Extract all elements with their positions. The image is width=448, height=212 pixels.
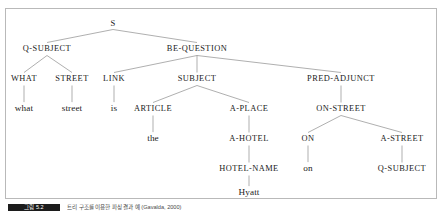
tree-node-a-place: A-PLACE: [230, 105, 269, 113]
tree-node-w-what: what: [15, 104, 33, 113]
tree-node-w-street: street: [62, 104, 83, 113]
tree-node-pred-adjunct: PRED-ADJUNCT: [307, 75, 375, 83]
figure-frame: SQ-SUBJECTBE-QUESTIONWHATSTREETLINKSUBJE…: [5, 8, 437, 199]
tree-edge-root-to-be-question: [113, 30, 197, 43]
tree-node-article: ARTICLE: [134, 105, 172, 113]
tree-node-on-street: ON-STREET: [316, 105, 366, 113]
tree-node-w-is: is: [111, 104, 117, 113]
tree-edge-q-subject-to-what: [24, 56, 47, 73]
tree-node-what: WHAT: [11, 75, 37, 83]
tree-node-w-hyatt: Hyatt: [239, 188, 260, 197]
tree-edge-q-subject-to-street-cat: [47, 56, 72, 73]
tree-node-subject: SUBJECT: [178, 75, 217, 83]
tree-edge-subject-to-article: [153, 86, 197, 103]
tree-edge-be-question-to-pred-adjunct: [197, 56, 341, 73]
tree-edge-subject-to-a-place: [197, 86, 249, 103]
tree-edge-root-to-q-subject: [47, 30, 113, 43]
tree-node-w-on: on: [303, 164, 312, 173]
tree-node-street-cat: STREET: [55, 75, 88, 83]
tree-node-q-subject2: Q-SUBJECT: [378, 165, 426, 173]
tree-node-a-hotel: A-HOTEL: [229, 135, 268, 143]
tree-node-q-subject: Q-SUBJECT: [23, 45, 71, 53]
tree-edge-on-street-to-on-cat: [308, 116, 341, 133]
tree-edge-be-question-to-link: [114, 56, 197, 73]
tree-edge-on-street-to-a-street: [341, 116, 402, 133]
caption-tag-label: 그림 5.2: [8, 204, 60, 211]
tree-node-a-street: A-STREET: [380, 135, 423, 143]
tree-node-be-question: BE-QUESTION: [167, 45, 227, 53]
tree-node-link: LINK: [103, 75, 125, 83]
caption-body-text: 트리 구조를 이용한 파싱 결과 예 (Gavalda, 2000): [67, 204, 433, 211]
tree-node-root: S: [111, 19, 116, 28]
tree-node-w-the: the: [147, 134, 159, 143]
tree-node-on-cat: ON: [302, 135, 315, 143]
tree-node-hotel-name: HOTEL-NAME: [219, 165, 278, 173]
figure-caption: 그림 5.2 트리 구조를 이용한 파싱 결과 예 (Gavalda, 2000…: [5, 203, 437, 212]
